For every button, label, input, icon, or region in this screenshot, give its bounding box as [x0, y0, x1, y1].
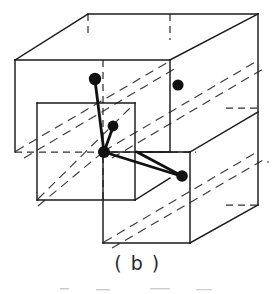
figure-caption: ( b ): [0, 252, 275, 274]
speck-right: [267, 161, 269, 163]
node-lower-right-dot: [176, 170, 188, 182]
figure-panel: ( b ): [0, 0, 275, 294]
node-upper-right-dot: [172, 79, 183, 90]
node-middle-dot: [108, 121, 119, 132]
node-center-dot: [98, 146, 110, 158]
speck-lower-left: [60, 288, 69, 289]
node-upper-left-dot: [89, 73, 101, 85]
lattice-diagram: [0, 0, 275, 294]
speck-lower-mid: [96, 289, 110, 290]
speck-lower-right: [150, 288, 170, 289]
speck-lower-far-right: [196, 289, 212, 290]
